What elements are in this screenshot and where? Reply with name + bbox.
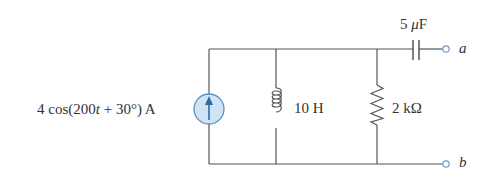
circuit-diagram [0,0,503,181]
resistor-zigzag-icon [371,85,383,125]
current-source-icon [194,94,224,124]
terminal-a-label: a [459,41,467,56]
terminal-a-icon [443,46,449,52]
terminal-b-icon [443,161,449,167]
source-label: 4 cos(200t + 30°) A [37,102,156,117]
inductor-coil-icon [272,88,281,112]
capacitor-label: 5 μF [400,17,427,32]
inductor-label: 10 H [294,101,324,116]
resistor-label: 2 kΩ [392,101,422,116]
terminal-b-label: b [459,155,467,170]
